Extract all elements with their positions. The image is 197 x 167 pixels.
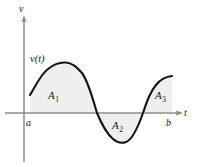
area-label-a1-subscript: 1 bbox=[55, 95, 59, 104]
v-axis bbox=[21, 15, 26, 162]
area-label-a3-subscript: 3 bbox=[162, 95, 166, 104]
figure-canvas bbox=[0, 0, 197, 167]
area-label-a2-subscript: 2 bbox=[119, 125, 123, 134]
x-tick-label-a: a bbox=[26, 118, 31, 128]
v-axis-label: v bbox=[19, 4, 23, 14]
area-a1-fill bbox=[30, 62, 97, 113]
t-axis-label: t bbox=[184, 108, 187, 118]
x-tick-label-b: b bbox=[166, 118, 171, 128]
area-label-a2-base: A bbox=[112, 119, 119, 131]
area-label-a1-base: A bbox=[48, 89, 55, 101]
curve-label-vt: v(t) bbox=[30, 54, 45, 65]
area-label-a3-base: A bbox=[155, 89, 162, 101]
velocity-time-figure: v t v(t) a b A1 A2 A3 bbox=[0, 0, 197, 167]
area-label-a1: A1 bbox=[48, 90, 58, 101]
area-label-a3: A3 bbox=[155, 90, 165, 101]
shaded-areas bbox=[30, 62, 172, 142]
area-label-a2: A2 bbox=[112, 120, 122, 131]
